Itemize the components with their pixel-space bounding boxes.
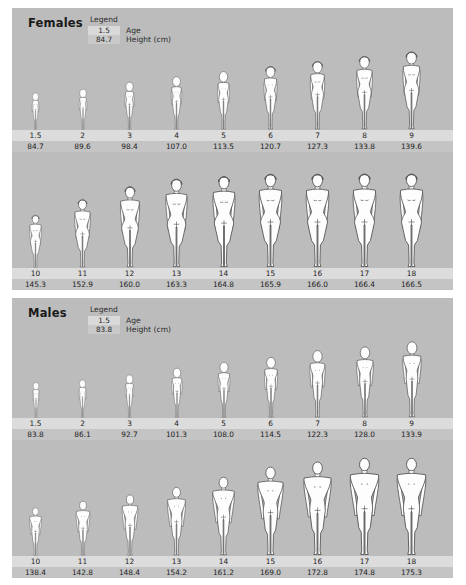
male-figure-r2-8 <box>388 448 435 556</box>
females-panel: Females Legend 1.5 Age 84.7 Height (cm) <box>12 8 453 289</box>
male-figure-r1-4 <box>200 334 247 418</box>
females-height-r1-5: 120.7 <box>247 141 294 152</box>
male-figure-r2-3 <box>153 448 200 556</box>
females-age-r1-8: 9 <box>388 130 435 141</box>
females-age-r2-7: 17 <box>341 268 388 279</box>
males-height-r2-8: 175.3 <box>388 567 435 578</box>
male-figure-r1-0 <box>12 334 59 418</box>
females-height-r2-0: 145.3 <box>12 279 59 290</box>
female-figure-r1-8 <box>388 44 435 130</box>
strip-filler <box>435 567 453 578</box>
females-height-r1-7: 133.8 <box>341 141 388 152</box>
females-height-r2-3: 163.3 <box>153 279 200 290</box>
males-section-title: Males <box>28 306 67 320</box>
females-height-r2-1: 152.9 <box>59 279 106 290</box>
male-figure-r1-2 <box>106 334 153 418</box>
female-figure-r1-0 <box>12 44 59 130</box>
males-height-r1-6: 122.3 <box>294 429 341 440</box>
females-age-r2-2: 12 <box>106 268 153 279</box>
females-height-r2-2: 160.0 <box>106 279 153 290</box>
male-figure-r1-5 <box>247 334 294 418</box>
females-height-r2-6: 166.0 <box>294 279 341 290</box>
males-age-r1-7: 8 <box>341 418 388 429</box>
females-height-r2-4: 164.8 <box>200 279 247 290</box>
strip-filler <box>435 429 453 440</box>
females-height-r1-2: 98.4 <box>106 141 153 152</box>
male-figure-r1-7 <box>341 334 388 418</box>
males-height-r2-5: 169.0 <box>247 567 294 578</box>
females-row-2-figures <box>12 160 453 268</box>
females-age-r1-5: 6 <box>247 130 294 141</box>
males-height-r2-3: 154.2 <box>153 567 200 578</box>
male-figure-r2-7 <box>341 448 388 556</box>
legend-title: Legend <box>90 305 171 314</box>
males-row-2-height-strip: 138.4142.8148.4154.2161.2169.0172.8174.8… <box>12 567 453 578</box>
females-row-1-age-strip: 1.523456789 <box>12 130 453 141</box>
male-figure-r1-3 <box>153 334 200 418</box>
males-row-2-age-strip: 101112131415161718 <box>12 556 453 567</box>
females-age-r2-3: 13 <box>153 268 200 279</box>
males-age-r1-8: 9 <box>388 418 435 429</box>
males-age-r2-7: 17 <box>341 556 388 567</box>
males-height-r2-7: 174.8 <box>341 567 388 578</box>
strip-filler <box>435 556 453 567</box>
females-height-r1-3: 107.0 <box>153 141 200 152</box>
females-height-r2-7: 166.4 <box>341 279 388 290</box>
females-height-r2-5: 165.9 <box>247 279 294 290</box>
legend-age-swatch: 1.5 <box>88 316 120 326</box>
growth-chart-page: Females Legend 1.5 Age 84.7 Height (cm) <box>0 0 466 585</box>
female-figure-r1-3 <box>153 44 200 130</box>
males-age-r1-5: 6 <box>247 418 294 429</box>
males-age-r2-0: 10 <box>12 556 59 567</box>
males-row-1-age-strip: 1.523456789 <box>12 418 453 429</box>
males-height-r1-3: 101.3 <box>153 429 200 440</box>
female-figure-r1-5 <box>247 44 294 130</box>
female-figure-r1-7 <box>341 44 388 130</box>
males-age-r2-4: 14 <box>200 556 247 567</box>
males-height-r2-0: 138.4 <box>12 567 59 578</box>
females-height-r1-1: 89.6 <box>59 141 106 152</box>
male-figure-r1-1 <box>59 334 106 418</box>
males-age-r2-3: 13 <box>153 556 200 567</box>
males-row-2-figures <box>12 448 453 556</box>
males-age-r2-5: 15 <box>247 556 294 567</box>
legend-age-label: Age <box>126 316 141 326</box>
females-height-r1-4: 113.5 <box>200 141 247 152</box>
males-row-1: 1.523456789 83.886.192.7101.3108.0114.51… <box>12 334 453 440</box>
legend-age-label: Age <box>126 26 141 36</box>
males-age-r1-1: 2 <box>59 418 106 429</box>
male-figure-r2-2 <box>106 448 153 556</box>
males-height-r2-2: 148.4 <box>106 567 153 578</box>
female-figure-r2-1 <box>59 160 106 268</box>
female-figure-r2-7 <box>341 160 388 268</box>
males-height-r1-7: 128.0 <box>341 429 388 440</box>
males-height-r1-0: 83.8 <box>12 429 59 440</box>
females-age-r2-0: 10 <box>12 268 59 279</box>
strip-filler <box>435 418 453 429</box>
females-age-r2-8: 18 <box>388 268 435 279</box>
females-row-2-age-strip: 101112131415161718 <box>12 268 453 279</box>
male-figure-r2-0 <box>12 448 59 556</box>
female-figure-r1-4 <box>200 44 247 130</box>
females-legend: Legend 1.5 Age 84.7 Height (cm) <box>88 15 171 45</box>
females-row-2-height-strip: 145.3152.9160.0163.3164.8165.9166.0166.4… <box>12 279 453 290</box>
males-age-r1-4: 5 <box>200 418 247 429</box>
males-row-1-height-strip: 83.886.192.7101.3108.0114.5122.3128.0133… <box>12 429 453 440</box>
females-age-r2-1: 11 <box>59 268 106 279</box>
female-figure-r2-2 <box>106 160 153 268</box>
strip-filler <box>435 268 453 279</box>
males-row-1-figures <box>12 334 453 418</box>
females-age-r1-3: 4 <box>153 130 200 141</box>
females-age-r2-4: 14 <box>200 268 247 279</box>
females-age-r2-6: 16 <box>294 268 341 279</box>
male-figure-r2-4 <box>200 448 247 556</box>
strip-filler <box>435 279 453 290</box>
female-figure-r2-4 <box>200 160 247 268</box>
legend-row-age: 1.5 Age <box>88 26 171 36</box>
male-figure-r2-6 <box>294 448 341 556</box>
males-age-r2-6: 16 <box>294 556 341 567</box>
female-figure-r2-6 <box>294 160 341 268</box>
male-figure-r1-6 <box>294 334 341 418</box>
females-age-r1-4: 5 <box>200 130 247 141</box>
females-age-r1-2: 3 <box>106 130 153 141</box>
